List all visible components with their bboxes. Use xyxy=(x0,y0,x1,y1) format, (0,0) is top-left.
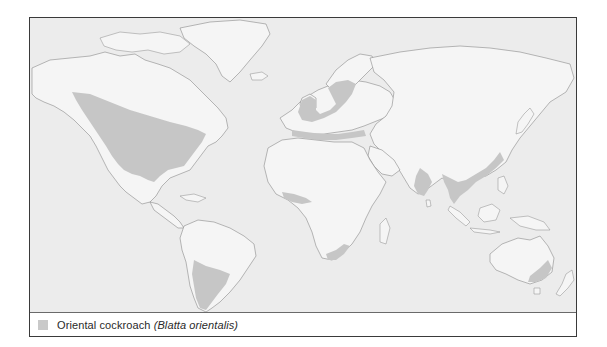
landmass-sumatra xyxy=(448,206,470,226)
landmass-tasmania xyxy=(534,288,540,294)
world-map-graphic xyxy=(30,18,576,312)
legend-label: Oriental cockroach (Blatta orientalis) xyxy=(57,319,238,331)
landmass-new-zealand xyxy=(556,270,574,296)
landmass-central-america xyxy=(150,202,184,228)
map-legend: Oriental cockroach (Blatta orientalis) xyxy=(30,313,576,336)
legend-swatch-oriental-cockroach xyxy=(38,320,48,330)
landmass-south-america xyxy=(180,220,256,312)
landmass-africa xyxy=(264,138,386,260)
landmass-borneo xyxy=(478,204,500,222)
landmass-philippines xyxy=(498,176,508,194)
landmass-arctic-islands xyxy=(100,32,190,54)
landmass-caribbean xyxy=(180,194,206,202)
legend-scientific-name: (Blatta orientalis) xyxy=(154,319,238,331)
landmass-iceland xyxy=(250,72,268,80)
landmass-asia xyxy=(370,46,574,194)
legend-common-name: Oriental cockroach xyxy=(57,319,154,331)
landmass-java xyxy=(470,228,500,234)
map-frame: Oriental cockroach (Blatta orientalis) xyxy=(29,17,577,337)
landmass-sri-lanka xyxy=(426,200,431,207)
landmass-new-guinea xyxy=(510,216,550,230)
world-map xyxy=(30,18,576,312)
landmass-madagascar xyxy=(380,218,390,244)
